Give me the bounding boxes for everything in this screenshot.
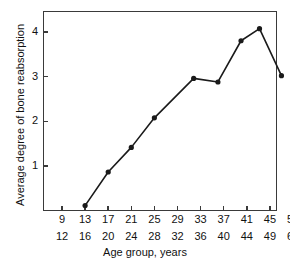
data-point-marker	[106, 169, 111, 174]
x-tick-label-bottom: 36	[189, 229, 213, 243]
data-point-marker	[83, 203, 88, 208]
x-tick-label-bottom: 40	[212, 229, 236, 243]
x-tick-label-bottom: 24	[119, 229, 143, 243]
data-point-marker	[215, 79, 220, 84]
x-tick-label-top: 50	[281, 212, 290, 226]
x-axis-labels-bottom: 1216202428323640444960	[43, 229, 277, 243]
x-tick-label-top: 13	[73, 212, 97, 226]
x-tick-label-top: 21	[119, 212, 143, 226]
x-tick-label-top: 37	[212, 212, 236, 226]
data-point-marker	[279, 73, 284, 78]
data-point-marker	[129, 145, 134, 150]
chart-root: Average degree of bone reabsorption 1234…	[0, 0, 290, 265]
x-tick-label-top: 25	[142, 212, 166, 226]
x-tick-label-top: 9	[50, 212, 74, 226]
series-markers	[83, 26, 285, 208]
series-polyline	[85, 29, 281, 206]
x-tick-label-bottom: 20	[96, 229, 120, 243]
x-tick-label-bottom: 28	[142, 229, 166, 243]
x-tick-label-top: 45	[258, 212, 282, 226]
data-point-marker	[257, 26, 262, 31]
x-tick-label-bottom: 60	[281, 229, 290, 243]
x-tick-label-bottom: 32	[166, 229, 190, 243]
x-axis-labels-top: 913172125293337414550	[43, 212, 277, 226]
x-tick-label-top: 17	[96, 212, 120, 226]
x-tick-label-bottom: 16	[73, 229, 97, 243]
data-point-marker	[191, 76, 196, 81]
x-tick-label-bottom: 44	[235, 229, 259, 243]
data-point-marker	[238, 38, 243, 43]
x-tick-label-bottom: 49	[258, 229, 282, 243]
x-tick-label-top: 41	[235, 212, 259, 226]
x-tick-label-bottom: 12	[50, 229, 74, 243]
x-axis-title: Age group, years	[0, 246, 290, 258]
data-point-marker	[152, 115, 157, 120]
x-tick-label-top: 33	[189, 212, 213, 226]
x-tick-label-top: 29	[166, 212, 190, 226]
